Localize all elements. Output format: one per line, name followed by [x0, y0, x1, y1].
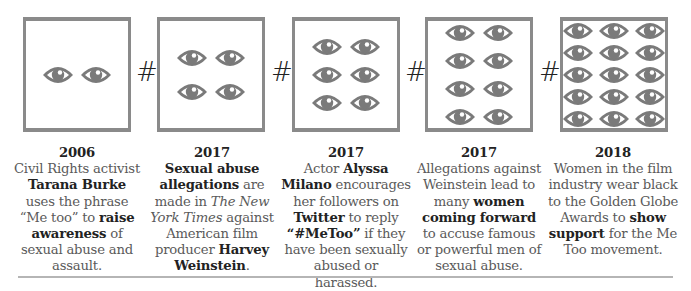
- eye-icon: [634, 87, 666, 107]
- year-label: 2017: [147, 145, 277, 161]
- hashtag-separator: #: [539, 57, 561, 87]
- caption-2017-nyt: 2017 Sexual abuse allegations are made i…: [147, 145, 277, 275]
- eye-icon: [311, 93, 343, 113]
- eye-icon: [598, 109, 630, 129]
- eye-icon: [598, 43, 630, 63]
- caption-2006: 2006 Civil Rights activist Tarana Burke …: [12, 145, 142, 275]
- eyes-grid: [176, 48, 246, 102]
- caption-2017-twitter: 2017 Actor Alyssa Milano encourages her …: [281, 145, 411, 291]
- panel-2017-nyt: [157, 17, 265, 132]
- hashtag-separator: #: [405, 57, 427, 87]
- eye-icon: [349, 65, 381, 85]
- eye-icon: [482, 79, 514, 99]
- caption-2017-women: 2017 Allegations against Weinstein lead …: [414, 145, 544, 275]
- eye-icon: [214, 82, 246, 102]
- eye-icon: [634, 109, 666, 129]
- eye-icon: [311, 37, 343, 57]
- panel-2017-women: [425, 17, 533, 132]
- eye-icon: [562, 43, 594, 63]
- caption-text: Actor Alyssa Milano encourages her follo…: [281, 161, 411, 289]
- eye-icon: [444, 107, 476, 127]
- eye-icon: [482, 107, 514, 127]
- eye-icon: [562, 109, 594, 129]
- eyes-grid: [562, 21, 666, 129]
- panel-2017-twitter: [292, 17, 400, 132]
- eye-icon: [444, 51, 476, 71]
- hashtag-separator: #: [136, 57, 158, 87]
- eye-icon: [214, 48, 246, 68]
- year-label: 2017: [281, 145, 411, 161]
- eye-icon: [562, 65, 594, 85]
- eye-icon: [482, 23, 514, 43]
- eye-icon: [562, 87, 594, 107]
- eye-icon: [562, 21, 594, 41]
- eye-icon: [80, 65, 112, 85]
- year-label: 2018: [548, 145, 678, 161]
- eye-icon: [598, 87, 630, 107]
- eye-icon: [349, 37, 381, 57]
- panel-2018: [560, 17, 668, 132]
- eye-icon: [176, 82, 208, 102]
- year-label: 2017: [414, 145, 544, 161]
- eye-icon: [349, 93, 381, 113]
- eye-icon: [176, 48, 208, 68]
- caption-text: Allegations against Weinstein lead to ma…: [417, 161, 541, 273]
- eye-icon: [311, 65, 343, 85]
- eyes-grid: [311, 37, 381, 113]
- caption-text: Women in the film industry wear black to…: [548, 161, 678, 257]
- eyes-grid: [42, 65, 112, 85]
- caption-text: Civil Rights activist Tarana Burke uses …: [14, 161, 140, 273]
- panel-2006: [23, 17, 131, 132]
- eye-icon: [444, 79, 476, 99]
- eye-icon: [598, 21, 630, 41]
- eye-icon: [444, 23, 476, 43]
- caption-2018: 2018 Women in the film industry wear bla…: [548, 145, 678, 258]
- eye-icon: [598, 65, 630, 85]
- eye-icon: [634, 65, 666, 85]
- caption-text: Sexual abuse allegations are made in The…: [150, 161, 274, 273]
- eyes-grid: [444, 23, 514, 127]
- hashtag-separator: #: [271, 57, 293, 87]
- eye-icon: [42, 65, 74, 85]
- eye-icon: [634, 43, 666, 63]
- year-label: 2006: [12, 145, 142, 161]
- eye-icon: [482, 51, 514, 71]
- bottom-rule: [18, 276, 673, 278]
- eye-icon: [634, 21, 666, 41]
